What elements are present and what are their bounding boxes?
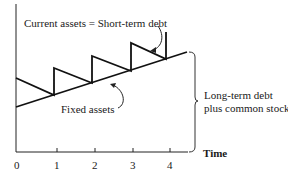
long-term-label-line2: plus common stock: [204, 102, 288, 114]
long-term-label-line1: Long-term debt: [204, 89, 273, 101]
x-tick-label-2: 2: [92, 159, 98, 171]
x-tick-label-1: 1: [54, 159, 60, 171]
x-tick-label-0: 0: [14, 159, 20, 171]
financing-diagram: Current assets = Short-term debt Fixed a…: [0, 0, 288, 177]
long-term-brace: [189, 52, 198, 152]
fixed-assets-label: Fixed assets: [61, 103, 114, 115]
current-assets-pointer: [150, 26, 162, 53]
current-assets-sawtooth: [16, 32, 166, 95]
x-tick-label-4: 4: [167, 159, 173, 171]
x-tick-label-3: 3: [130, 159, 136, 171]
x-axis-label: Time: [203, 147, 227, 159]
current-assets-label: Current assets = Short-term debt: [24, 17, 167, 29]
